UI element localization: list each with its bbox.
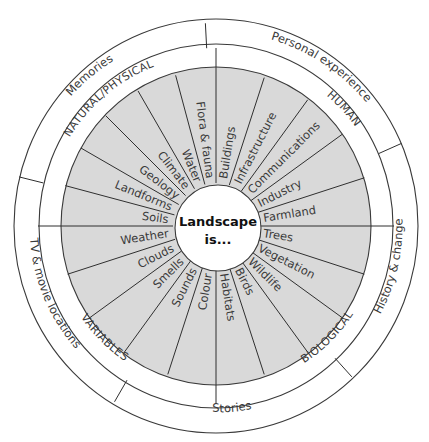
center-title-line2: is...: [204, 232, 231, 247]
landscape-wheel-diagram: SoilsLandformsGeologyClimateWaterFlora &…: [0, 0, 429, 442]
center-title-line1: Landscape: [179, 214, 257, 229]
